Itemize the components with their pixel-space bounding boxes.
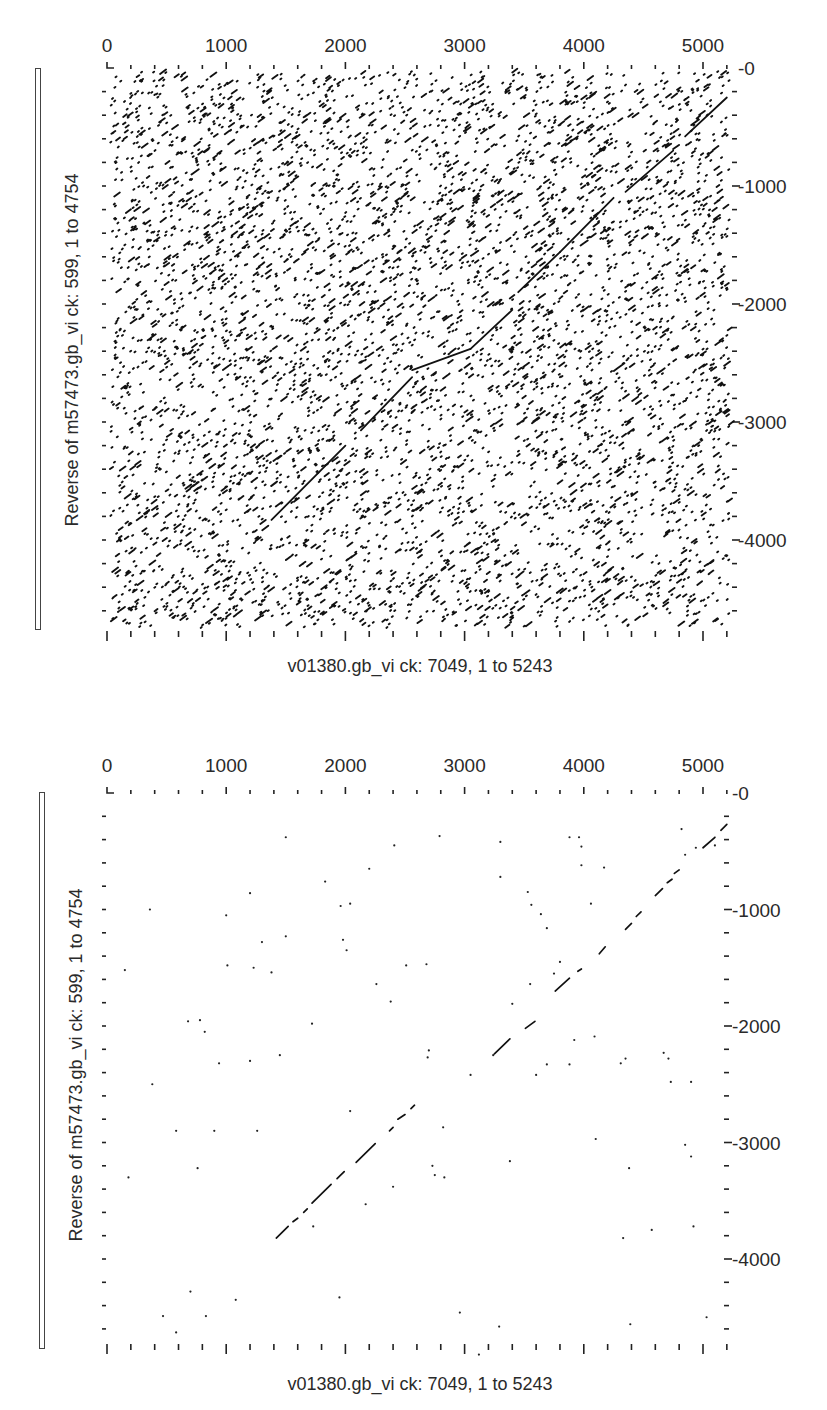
match-dot	[345, 949, 347, 951]
match-dot	[392, 1186, 394, 1188]
match-dot	[285, 836, 287, 838]
match-dot	[235, 1299, 237, 1301]
match-dot	[261, 941, 263, 943]
match-dot	[511, 1003, 513, 1005]
match-dot	[187, 1020, 189, 1022]
match-dot	[527, 891, 529, 893]
match-dot	[540, 913, 542, 915]
x-tick-label: 5000	[682, 755, 724, 776]
alignment-segment	[685, 98, 727, 137]
match-dot	[226, 964, 228, 966]
alignment-segment	[721, 824, 727, 830]
alignment-segment	[578, 969, 582, 971]
match-dot	[204, 1031, 206, 1033]
alignment-segment	[703, 837, 715, 847]
dotplot-chart-top: 010002000300040005000 -0-1000-2000-3000-…	[0, 0, 827, 700]
match-dot	[342, 939, 344, 941]
x-tick-label: 1000	[205, 755, 247, 776]
y-tick-label: -3000	[738, 412, 787, 433]
match-dot	[663, 1052, 665, 1054]
alignment-segment	[361, 377, 412, 430]
match-dot	[279, 1054, 281, 1056]
alignment-segment	[304, 1209, 308, 1212]
y-tick-label: -2000	[732, 1016, 781, 1037]
x-axis-title: v01380.gb_vi ck: 7049, 1 to 5243	[287, 1374, 552, 1395]
dotplot-panel-bottom: 010002000300040005000 -0-1000-2000-3000-…	[0, 720, 827, 1410]
match-dot	[442, 1126, 444, 1128]
match-dot	[375, 983, 377, 985]
alignment-segment	[356, 1144, 375, 1163]
match-dot	[127, 1176, 129, 1178]
match-dot	[546, 1063, 548, 1065]
match-dot	[469, 1074, 471, 1076]
alignment-segment	[525, 1021, 535, 1028]
match-dot	[714, 844, 716, 846]
match-dot	[499, 841, 501, 843]
match-dot	[628, 1167, 630, 1169]
match-dot	[573, 1039, 575, 1041]
alignment-segment	[555, 978, 569, 991]
match-dot	[478, 1353, 480, 1355]
match-dot	[324, 880, 326, 882]
alignment-segment	[412, 349, 470, 370]
y-axis-title: Reverse of m57473.gb_vi ck: 599, 1 to 47…	[62, 173, 83, 526]
x-tick-label: 1000	[205, 35, 247, 56]
match-dot	[568, 836, 570, 838]
x-tick-label: 3000	[443, 755, 485, 776]
match-dot	[684, 854, 686, 856]
match-dot	[580, 864, 582, 866]
y-tick-label: -4000	[738, 530, 787, 551]
y-tick-labels: -0-1000-2000-3000-4000	[738, 58, 787, 551]
match-dot	[338, 1296, 340, 1298]
alignment-segment	[674, 870, 679, 873]
y-tick-label: -1000	[738, 176, 787, 197]
y-tick-label: -0	[738, 58, 755, 79]
match-dot	[225, 914, 227, 916]
x-tick-label: 0	[102, 35, 113, 56]
match-dot	[256, 1130, 258, 1132]
match-dot	[695, 847, 697, 849]
match-dot	[690, 1155, 692, 1157]
match-dot	[205, 1315, 207, 1317]
match-dot	[705, 1316, 707, 1318]
match-dot	[311, 1023, 313, 1025]
match-dot	[427, 1056, 429, 1058]
match-dot	[365, 1203, 367, 1205]
match-dot	[595, 1138, 597, 1140]
alignment-segment	[390, 1127, 394, 1130]
match-dot	[340, 905, 342, 907]
match-dot	[590, 903, 592, 905]
match-dot	[434, 1174, 436, 1176]
alignment-segment	[518, 252, 560, 292]
alignment-segment	[411, 1105, 415, 1108]
match-dots	[110, 69, 734, 628]
alignment-segment	[293, 1218, 298, 1221]
y-tick-label: -0	[732, 783, 749, 804]
match-dot	[529, 983, 531, 985]
diagonal-alignment	[276, 824, 727, 1238]
y-axis-title: Reverse of m57473.gb_vi ck: 599, 1 to 47…	[66, 888, 87, 1241]
match-dot	[213, 1130, 215, 1132]
match-dot	[603, 866, 605, 868]
match-dot	[405, 964, 407, 966]
match-dot	[651, 1229, 653, 1231]
match-dots	[124, 828, 716, 1356]
match-dot	[593, 1035, 595, 1037]
match-dot	[553, 972, 555, 974]
match-dot	[218, 1062, 220, 1064]
match-dot	[249, 892, 251, 894]
alignment-segment	[626, 923, 632, 929]
match-dot	[425, 963, 427, 965]
match-dot	[199, 1019, 201, 1021]
x-tick-label: 4000	[563, 35, 605, 56]
alignment-segment	[494, 1039, 509, 1054]
match-dot	[162, 1315, 164, 1317]
x-tick-label: 2000	[324, 35, 366, 56]
match-dot	[580, 845, 582, 847]
match-dot	[498, 1325, 500, 1327]
match-dot	[253, 967, 255, 969]
match-dot	[509, 1160, 511, 1162]
match-dot	[568, 1063, 570, 1065]
match-dot	[620, 1062, 622, 1064]
match-dot	[175, 1331, 177, 1333]
